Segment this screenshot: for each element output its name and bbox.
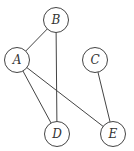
node-label: A bbox=[12, 53, 22, 67]
node-label: C bbox=[90, 53, 99, 67]
node-d: D bbox=[45, 122, 70, 147]
graph-diagram: ABCDE bbox=[0, 0, 134, 151]
node-a: A bbox=[5, 48, 30, 73]
nodes-group: ABCDE bbox=[5, 8, 126, 147]
node-e: E bbox=[101, 122, 126, 147]
node-b: B bbox=[44, 8, 69, 33]
node-label: B bbox=[51, 13, 61, 27]
node-c: C bbox=[83, 48, 108, 73]
edges-group bbox=[17, 20, 113, 134]
node-label: E bbox=[108, 127, 118, 141]
node-label: D bbox=[51, 127, 62, 141]
edge-b-d bbox=[56, 20, 57, 134]
